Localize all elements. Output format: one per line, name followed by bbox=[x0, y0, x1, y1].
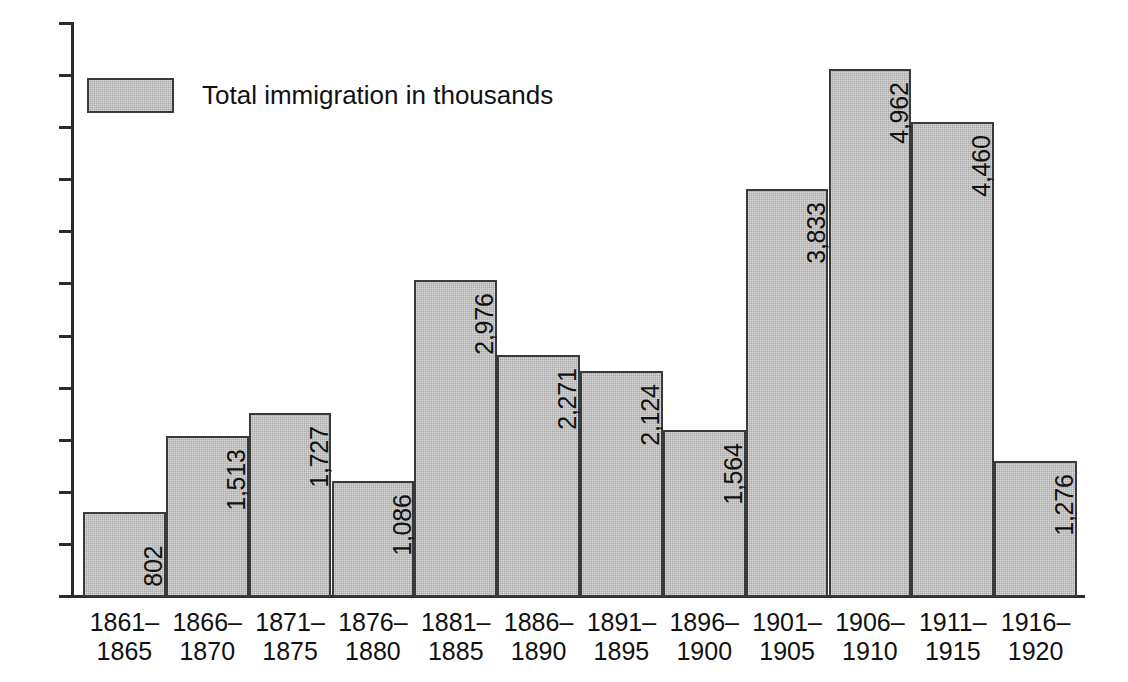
y-axis-tick bbox=[59, 22, 72, 25]
bar-value-label: 2,271 bbox=[555, 347, 580, 430]
bar-value-label: 1,513 bbox=[224, 428, 249, 511]
x-axis-label-line: 1875 bbox=[249, 637, 332, 666]
y-axis-tick bbox=[59, 491, 72, 494]
x-axis-label: 1911–1915 bbox=[911, 608, 994, 666]
x-axis-label: 1906–1910 bbox=[829, 608, 912, 666]
x-axis-label-line: 1900 bbox=[663, 637, 746, 666]
x-axis-label: 1866–1870 bbox=[166, 608, 249, 666]
x-axis-label: 1896–1900 bbox=[663, 608, 746, 666]
x-axis-label-line: 1890 bbox=[497, 637, 580, 666]
bar-value-label: 1,086 bbox=[389, 473, 414, 556]
plot-area: 8021,5131,7271,0862,9762,2712,1241,5643,… bbox=[83, 22, 1077, 597]
y-axis-tick bbox=[59, 230, 72, 233]
x-axis-label: 1871–1875 bbox=[249, 608, 332, 666]
x-axis-label-line: 1905 bbox=[746, 637, 829, 666]
y-axis-line bbox=[71, 22, 74, 598]
x-axis-label: 1876–1880 bbox=[332, 608, 415, 666]
y-axis-tick bbox=[59, 595, 72, 598]
x-axis-label: 1881–1885 bbox=[414, 608, 497, 666]
x-axis-label-line: 1886– bbox=[497, 608, 580, 637]
x-axis-label-line: 1911– bbox=[911, 608, 994, 637]
bar bbox=[829, 69, 912, 597]
x-axis-label-line: 1871– bbox=[249, 608, 332, 637]
y-axis-tick bbox=[59, 282, 72, 285]
bar-value-label: 1,727 bbox=[306, 405, 331, 488]
x-axis-label: 1886–1890 bbox=[497, 608, 580, 666]
x-axis-label-line: 1906– bbox=[829, 608, 912, 637]
y-axis-tick bbox=[59, 387, 72, 390]
immigration-bar-chart: Total immigration in thousands 8021,5131… bbox=[0, 0, 1128, 682]
x-axis-label-line: 1891– bbox=[580, 608, 663, 637]
y-axis-tick bbox=[59, 178, 72, 181]
bar-value-label: 4,460 bbox=[969, 114, 994, 197]
bar-value-label: 2,976 bbox=[472, 272, 497, 355]
x-axis-label-line: 1895 bbox=[580, 637, 663, 666]
x-axis-label: 1916–1920 bbox=[994, 608, 1077, 666]
x-axis-label: 1861–1865 bbox=[83, 608, 166, 666]
x-axis-label-line: 1881– bbox=[414, 608, 497, 637]
x-axis-label-line: 1880 bbox=[332, 637, 415, 666]
x-axis-label-line: 1865 bbox=[83, 637, 166, 666]
y-axis-tick bbox=[59, 74, 72, 77]
x-axis-label-line: 1870 bbox=[166, 637, 249, 666]
x-axis-label-line: 1896– bbox=[663, 608, 746, 637]
bar-value-label: 3,833 bbox=[803, 181, 828, 264]
bar-value-label: 1,564 bbox=[721, 422, 746, 505]
x-axis-label-line: 1876– bbox=[332, 608, 415, 637]
x-axis-label-line: 1916– bbox=[994, 608, 1077, 637]
y-axis-tick bbox=[59, 126, 72, 129]
x-axis-label-line: 1901– bbox=[746, 608, 829, 637]
bar-value-label: 4,962 bbox=[886, 61, 911, 144]
y-axis-tick bbox=[59, 335, 72, 338]
x-axis-label-line: 1920 bbox=[994, 637, 1077, 666]
bar-value-label: 2,124 bbox=[638, 363, 663, 446]
x-axis-label-line: 1910 bbox=[829, 637, 912, 666]
x-axis-label-line: 1885 bbox=[414, 637, 497, 666]
x-axis-label: 1891–1895 bbox=[580, 608, 663, 666]
x-axis-label-line: 1915 bbox=[911, 637, 994, 666]
bar-value-label: 802 bbox=[141, 504, 166, 587]
y-axis-tick bbox=[59, 439, 72, 442]
x-axis-label-line: 1866– bbox=[166, 608, 249, 637]
x-axis-label-line: 1861– bbox=[83, 608, 166, 637]
bar-value-label: 1,276 bbox=[1052, 453, 1077, 536]
y-axis-tick bbox=[59, 543, 72, 546]
x-axis-label: 1901–1905 bbox=[746, 608, 829, 666]
